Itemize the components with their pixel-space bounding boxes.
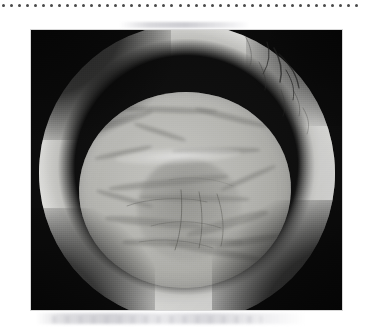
separator-dot xyxy=(162,4,165,7)
separator-dot xyxy=(34,4,37,7)
dotted-separator-rule xyxy=(2,4,357,10)
separator-dot xyxy=(267,4,270,7)
separator-dot xyxy=(82,4,85,7)
separator-dot xyxy=(347,4,350,7)
separator-dot xyxy=(2,4,5,7)
separator-dot xyxy=(291,4,294,7)
page-root xyxy=(0,0,365,330)
separator-dot xyxy=(170,4,173,7)
clinical-photograph xyxy=(31,30,342,310)
separator-dot xyxy=(90,4,93,7)
separator-dot xyxy=(187,4,190,7)
separator-dot xyxy=(122,4,125,7)
separator-dot xyxy=(203,4,206,7)
separator-dot xyxy=(50,4,53,7)
separator-dot xyxy=(355,4,358,7)
separator-dot xyxy=(283,4,286,7)
separator-dot xyxy=(179,4,182,7)
separator-dot xyxy=(323,4,326,7)
separator-dot xyxy=(18,4,21,7)
separator-dot xyxy=(66,4,69,7)
separator-dot xyxy=(154,4,157,7)
separator-dot xyxy=(26,4,29,7)
separator-dot xyxy=(307,4,310,7)
separator-dot xyxy=(106,4,109,7)
separator-dot xyxy=(331,4,334,7)
separator-dot xyxy=(138,4,141,7)
separator-dot xyxy=(146,4,149,7)
separator-dot xyxy=(211,4,214,7)
separator-dot xyxy=(98,4,101,7)
separator-dot xyxy=(259,4,262,7)
separator-dot xyxy=(10,4,13,7)
separator-dot xyxy=(58,4,61,7)
separator-dot xyxy=(195,4,198,7)
separator-dot xyxy=(251,4,254,7)
separator-dot xyxy=(42,4,45,7)
separator-dot xyxy=(339,4,342,7)
halftone-print-screen xyxy=(31,30,342,310)
scan-artifact-top xyxy=(120,22,250,28)
separator-dot xyxy=(74,4,77,7)
scan-artifact-bottom-texture xyxy=(52,316,262,323)
separator-dot xyxy=(243,4,246,7)
separator-dot xyxy=(219,4,222,7)
separator-dot xyxy=(114,4,117,7)
separator-dot xyxy=(227,4,230,7)
separator-dot xyxy=(235,4,238,7)
separator-dot xyxy=(130,4,133,7)
separator-dot xyxy=(315,4,318,7)
separator-dot xyxy=(299,4,302,7)
separator-dot xyxy=(275,4,278,7)
